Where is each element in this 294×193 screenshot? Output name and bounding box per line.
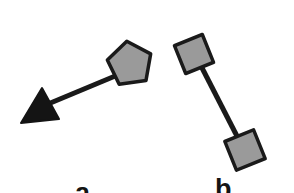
arrowhead-node — [21, 88, 59, 123]
panel-label-a: a — [75, 180, 90, 193]
panel-b-group — [174, 34, 265, 170]
diagram-svg — [0, 0, 294, 193]
square-node-bottom — [225, 130, 265, 170]
panel-label-b: b — [215, 176, 232, 193]
panel-a-group — [21, 38, 154, 123]
edge-pentagon-arrow — [48, 74, 120, 104]
square-node-top — [174, 34, 213, 73]
figure-canvas: a b — [0, 0, 294, 193]
edge-square-square — [199, 62, 240, 142]
